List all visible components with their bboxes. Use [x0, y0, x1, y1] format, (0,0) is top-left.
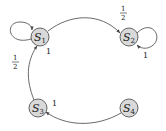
node-s2: S 2	[120, 28, 138, 46]
edge-s3-to-s1	[28, 46, 37, 100]
edge-label-s3-to-s1: 1	[46, 47, 51, 56]
edge-label-s4-to-s3: 1	[52, 99, 57, 108]
node-subscript: 3	[40, 108, 44, 116]
edge-s2-self-loop	[137, 28, 157, 49]
node-s4: S 4	[120, 99, 138, 117]
fraction-numerator: 1	[121, 5, 125, 13]
node-subscript: 2	[131, 37, 135, 45]
edge-s1-to-s2	[48, 18, 120, 33]
fraction-denominator: 2	[121, 14, 125, 22]
edge-s4-to-s3	[46, 112, 121, 123]
node-s1: S 1	[31, 28, 49, 46]
fraction-denominator: 2	[13, 63, 17, 71]
edge-label-s1-self: 1 2	[12, 54, 19, 71]
fraction-numerator: 1	[13, 54, 17, 62]
edge-s1-self-loop	[10, 22, 32, 40]
node-subscript: 4	[131, 108, 136, 116]
edge-label-s1-to-s2: 1 2	[120, 5, 127, 22]
edge-label-s2-self: 1	[143, 51, 148, 60]
state-diagram: 1 2 1 2 1 1 1 S 1 S 2 S 3 S 4	[0, 0, 166, 131]
node-subscript: 1	[42, 37, 46, 45]
node-s3: S 3	[29, 99, 47, 117]
